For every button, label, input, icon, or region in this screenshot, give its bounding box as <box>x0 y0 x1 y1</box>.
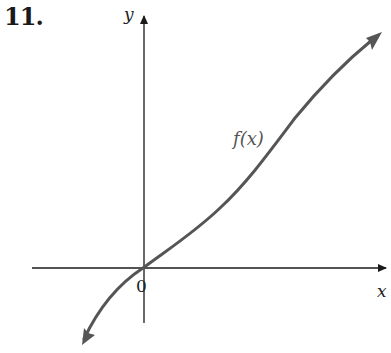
x-axis-label: x <box>377 281 387 301</box>
graph <box>0 0 391 353</box>
y-axis-label: y <box>124 4 134 24</box>
curve-arrow-upper-icon <box>366 32 382 50</box>
origin-label: 0 <box>136 276 147 296</box>
curve-label: f(x) <box>233 128 264 149</box>
curve-f-x <box>84 40 372 339</box>
